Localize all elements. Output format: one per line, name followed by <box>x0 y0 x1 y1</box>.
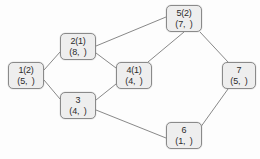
node-2[interactable]: 2(1)(8, ) <box>60 33 96 60</box>
edge-4-5 <box>148 32 184 62</box>
node-4-value: (4, ) <box>125 76 142 87</box>
node-3[interactable]: 3(4, ) <box>60 92 96 119</box>
node-5[interactable]: 5(2)(7, ) <box>166 5 202 32</box>
node-3-value: (4, ) <box>69 106 86 117</box>
node-4-label: 4(1) <box>126 65 141 76</box>
edge-6-7 <box>200 89 228 128</box>
edge-5-7 <box>200 32 228 62</box>
edge-3-6 <box>96 110 166 138</box>
node-1-value: (5, ) <box>17 76 34 87</box>
node-6-label: 6 <box>182 125 187 136</box>
edge-1-3 <box>44 80 60 99</box>
node-3-label: 3 <box>76 95 81 106</box>
edge-1-2 <box>44 52 60 70</box>
edge-3-4 <box>96 84 116 100</box>
node-1-label: 1(2) <box>18 65 33 76</box>
node-6[interactable]: 6(1, ) <box>166 122 202 149</box>
edge-2-4 <box>96 53 116 68</box>
node-7[interactable]: 7(5, ) <box>222 62 256 89</box>
node-2-value: (8, ) <box>69 47 86 58</box>
diagram-canvas: 1(2)(5, )2(1)(8, )3(4, )4(1)(4, )5(2)(7,… <box>0 0 260 159</box>
node-7-value: (5, ) <box>230 76 247 87</box>
node-4[interactable]: 4(1)(4, ) <box>116 62 152 89</box>
node-7-label: 7 <box>237 65 242 76</box>
node-1[interactable]: 1(2)(5, ) <box>8 62 44 89</box>
node-5-value: (7, ) <box>175 19 192 30</box>
edge-2-5 <box>96 17 166 46</box>
node-2-label: 2(1) <box>70 36 85 47</box>
node-5-label: 5(2) <box>176 8 191 19</box>
node-6-value: (1, ) <box>175 136 192 147</box>
